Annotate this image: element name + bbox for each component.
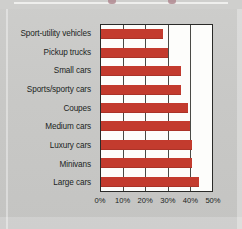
header-rule	[14, 2, 228, 4]
value-axis-tick-label: 30%	[160, 196, 175, 205]
bar	[101, 48, 168, 58]
header-mark-left-icon	[108, 0, 116, 4]
bar-row	[101, 25, 212, 43]
bar	[101, 177, 199, 187]
bar-row	[101, 99, 212, 117]
bar-row	[101, 136, 212, 154]
value-axis-tick-label: 10%	[115, 196, 130, 205]
bar-series	[101, 25, 212, 191]
bar-row	[101, 80, 212, 98]
bar	[101, 121, 190, 131]
chart-page: Sport-utility vehicles Pickup trucks Sma…	[0, 0, 242, 229]
bar	[101, 103, 188, 113]
bar-row	[101, 154, 212, 172]
bar	[101, 66, 181, 76]
category-label: Luxury cars	[2, 136, 96, 155]
value-axis-tick-label: 0%	[95, 196, 106, 205]
category-axis-labels: Sport-utility vehicles Pickup trucks Sma…	[2, 24, 96, 192]
category-label: Small cars	[2, 61, 96, 80]
bar	[101, 158, 192, 168]
bar	[101, 85, 181, 95]
plot-area	[100, 24, 213, 192]
bar-row	[101, 43, 212, 61]
category-label: Sport-utility vehicles	[2, 24, 96, 43]
value-axis-tick-label: 40%	[183, 196, 198, 205]
category-label: Pickup trucks	[2, 43, 96, 62]
category-label: Minivans	[2, 155, 96, 174]
category-label: Sports/sporty cars	[2, 80, 96, 99]
bar	[101, 29, 163, 39]
cropped-header-strip	[0, 0, 242, 9]
bar-row	[101, 173, 212, 191]
value-axis-labels: 0%10%20%30%40%50%	[100, 193, 213, 209]
category-label: Coupes	[2, 99, 96, 118]
header-mark-right-icon	[168, 0, 176, 4]
bar-row	[101, 117, 212, 135]
bar-row	[101, 62, 212, 80]
category-label: Medium cars	[2, 117, 96, 136]
value-axis-tick-label: 50%	[205, 196, 220, 205]
value-axis-tick-label: 20%	[138, 196, 153, 205]
bar	[101, 140, 192, 150]
bar-chart: Sport-utility vehicles Pickup trucks Sma…	[0, 9, 242, 229]
category-label: Large cars	[2, 173, 96, 192]
